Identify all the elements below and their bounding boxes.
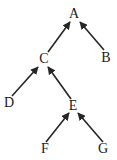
graph-edge-g-e <box>78 113 103 142</box>
graph-diagram: ABCDEFG <box>0 0 117 160</box>
graph-node-d: D <box>1 96 17 110</box>
graph-node-f: F <box>37 142 53 156</box>
graph-edge-e-c <box>48 67 71 99</box>
graph-edge-c-a <box>48 22 70 52</box>
graph-node-a: A <box>66 7 82 21</box>
graph-node-c: C <box>36 52 52 66</box>
graph-edge-d-c <box>12 67 38 96</box>
graph-edge-b-a <box>80 22 104 50</box>
graph-edge-f-e <box>46 113 69 142</box>
edge-layer <box>12 22 104 142</box>
graph-node-g: G <box>95 142 111 156</box>
graph-node-b: B <box>98 51 114 65</box>
graph-edges-canvas <box>0 0 117 160</box>
graph-node-e: E <box>65 99 81 113</box>
